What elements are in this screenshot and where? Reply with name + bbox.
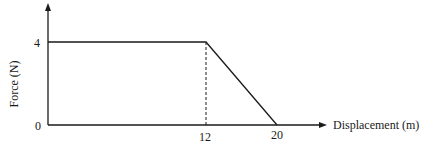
origin-label: 0 [35,120,41,132]
y-axis-arrow-icon [45,3,51,11]
y-tick-4: 4 [34,37,40,49]
x-axis-arrow-icon [319,122,327,128]
x-tick-12: 12 [199,131,211,143]
y-axis-label: Force (N) [7,61,22,108]
x-tick-20: 20 [271,129,283,141]
x-axis-label: Displacement (m) [333,119,419,131]
force-curve [48,42,277,125]
